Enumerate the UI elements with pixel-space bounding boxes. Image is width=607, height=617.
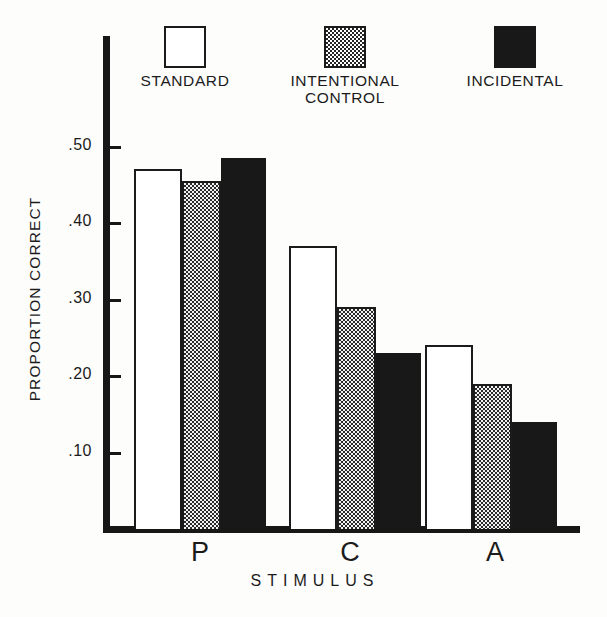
bar-chart-figure: STANDARD INTENTIONAL CONTROL INCIDENTAL … [0,0,607,617]
y-tick-label: .10 [48,442,92,460]
plot-area: PROPORTION CORRECT .50.40.30.20.10 P C A… [0,0,607,617]
bar-p-standard [134,169,182,529]
y-tick-label: .30 [48,289,92,307]
y-axis-line [103,36,110,533]
y-tick-label: .50 [48,136,92,154]
x-axis-title: STIMULUS [150,572,480,590]
x-group-label-p: P [170,537,230,568]
y-tick-mark [110,222,121,225]
y-axis-title: PROPORTION CORRECT [26,184,44,414]
bar-p-intentional [182,181,221,529]
x-group-label-a: A [465,537,525,568]
y-tick-label: .20 [48,365,92,383]
bar-a-incidental [512,422,557,529]
y-tick-mark [110,375,121,378]
bar-a-intentional [473,384,512,529]
x-group-label-c: C [320,537,380,568]
y-tick-mark [110,146,121,149]
y-tick-label: .40 [48,212,92,230]
bar-c-incidental [376,353,421,529]
bar-c-standard [289,246,337,529]
bar-c-intentional [337,307,376,529]
y-tick-mark [110,299,121,302]
y-tick-mark [110,452,121,455]
bar-p-incidental [221,158,266,529]
bar-a-standard [425,345,473,529]
